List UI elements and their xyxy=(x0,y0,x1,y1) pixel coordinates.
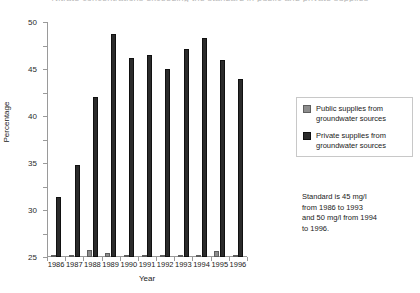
chart-title: Nitrate concentrations exceeding the sta… xyxy=(0,0,420,2)
chart-legend: Public supplies from groundwater sources… xyxy=(296,97,413,157)
bar-public-1992 xyxy=(160,255,165,257)
bar-public-1991 xyxy=(142,255,147,257)
legend-swatch-private-icon xyxy=(303,132,311,140)
x-axis-tick-label: 1986 xyxy=(48,260,65,269)
x-axis-tick-label: 1990 xyxy=(120,260,137,269)
bar-private-1993 xyxy=(184,49,189,257)
y-axis-tick: 20 xyxy=(43,163,47,164)
legend-label-private-line1: Private supplies from xyxy=(316,131,386,140)
y-axis-tick-label: 50 xyxy=(28,18,37,27)
x-axis-tick-label: 1987 xyxy=(66,260,83,269)
x-axis-tick-label: 1989 xyxy=(102,260,119,269)
y-axis-tick-label: 25 xyxy=(28,253,37,262)
legend-swatch-public-icon xyxy=(303,105,311,113)
bar-private-1990 xyxy=(129,58,134,257)
y-axis-tick: 30 xyxy=(43,116,47,117)
bar-private-1991 xyxy=(147,55,152,257)
plot-area: 05101520253035404550 xyxy=(47,22,247,257)
bar-private-1992 xyxy=(165,69,170,257)
y-axis-tick-label: 40 xyxy=(28,112,37,121)
y-axis-tick: 45 xyxy=(43,46,47,47)
x-axis-tick-label: 1988 xyxy=(84,260,101,269)
x-axis-tick xyxy=(247,257,248,261)
bar-public-1993 xyxy=(178,255,183,257)
x-axis-tick-label: 1996 xyxy=(230,260,247,269)
bar-public-1986 xyxy=(51,255,56,257)
bar-private-1996 xyxy=(238,79,243,257)
bar-public-1990 xyxy=(124,255,129,257)
y-axis-tick: 15 xyxy=(43,187,47,188)
y-axis-tick-label: 30 xyxy=(28,206,37,215)
annotation-line-4: to 1996. xyxy=(302,224,416,235)
bar-private-1994 xyxy=(202,38,207,257)
y-axis-tick: 25 xyxy=(43,140,47,141)
x-axis-tick-label: 1992 xyxy=(157,260,174,269)
y-axis-tick: 40 xyxy=(43,69,47,70)
x-axis-tick-labels: 1986198719881989199019911992199319941995… xyxy=(47,260,247,271)
bar-public-1989 xyxy=(105,253,110,257)
bar-private-1989 xyxy=(111,34,116,257)
annotation-line-2: from 1986 to 1993 xyxy=(302,203,416,214)
legend-item-public: Public supplies from groundwater sources xyxy=(303,104,406,123)
x-axis-tick-label: 1995 xyxy=(211,260,228,269)
bar-private-1987 xyxy=(75,165,80,257)
annotation-line-1: Standard is 45 mg/l xyxy=(302,192,416,203)
x-axis-tick-label: 1991 xyxy=(139,260,156,269)
y-axis-title: Percentage xyxy=(2,102,11,143)
y-axis-tick: 50 xyxy=(43,22,47,23)
legend-label-private: Private supplies from groundwater source… xyxy=(316,131,386,150)
bar-public-1994 xyxy=(196,255,201,257)
bar-public-1988 xyxy=(87,250,92,257)
legend-label-private-line2: groundwater sources xyxy=(316,141,386,150)
y-axis-tick-label: 35 xyxy=(28,159,37,168)
bar-private-1995 xyxy=(220,60,225,257)
bar-private-1988 xyxy=(93,97,98,257)
y-axis-tick: 10 xyxy=(43,210,47,211)
x-axis-tick-label: 1994 xyxy=(193,260,210,269)
y-axis-line xyxy=(47,22,48,257)
y-axis-tick: 35 xyxy=(43,93,47,94)
bar-private-1986 xyxy=(56,197,61,257)
annotation-line-3: and 50 mg/l from 1994 xyxy=(302,213,416,224)
y-axis-tick: 5 xyxy=(43,234,47,235)
bar-public-1987 xyxy=(69,255,74,257)
bar-public-1996 xyxy=(233,255,238,257)
chart-annotation: Standard is 45 mg/l from 1986 to 1993 an… xyxy=(302,192,416,234)
legend-label-public-line1: Public supplies from xyxy=(316,104,383,113)
x-axis-title: Year xyxy=(47,274,247,283)
legend-label-public: Public supplies from groundwater sources xyxy=(316,104,386,123)
legend-item-private: Private supplies from groundwater source… xyxy=(303,131,406,150)
bar-public-1995 xyxy=(214,251,219,257)
x-axis-tick-label: 1993 xyxy=(175,260,192,269)
y-axis-tick-label: 45 xyxy=(28,65,37,74)
legend-label-public-line2: groundwater sources xyxy=(316,114,386,123)
